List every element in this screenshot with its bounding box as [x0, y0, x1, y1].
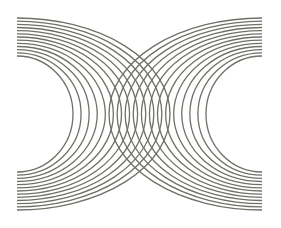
interlocking-arcs-figure: [0, 0, 281, 228]
background: [0, 0, 281, 228]
